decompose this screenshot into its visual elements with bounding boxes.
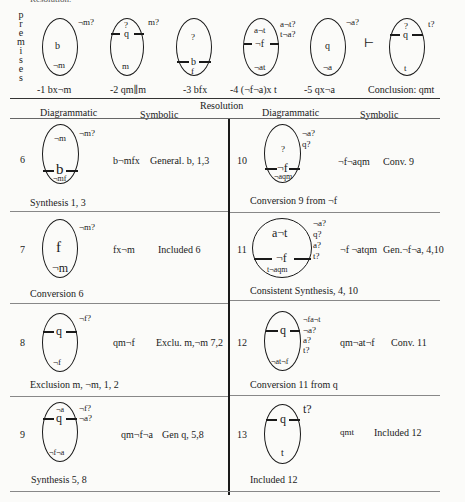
- outside-label: ¬a?: [79, 413, 92, 423]
- inside-label: ¬aqm: [274, 172, 292, 181]
- rule-justification: Gen.¬f¬a, 4,10: [383, 244, 444, 255]
- diagram-caption: Conversion 9 from ¬f: [250, 195, 337, 206]
- rule-justification: Gen q, 5,8: [162, 429, 204, 440]
- outside-label: ¬m?: [79, 128, 95, 138]
- inside-label: q: [124, 28, 129, 39]
- diagram-caption: Synthesis 1, 3: [30, 197, 86, 208]
- inside-label: f: [191, 66, 194, 76]
- step-number: 8: [20, 337, 25, 348]
- premises-divider: [10, 98, 440, 99]
- outside-label: t?: [303, 345, 310, 355]
- entails-icon: ⊢: [364, 37, 374, 49]
- outside-label: a¬t?: [280, 19, 296, 29]
- premise-caption: -2 qm∥m: [110, 84, 146, 95]
- diagram-caption: Included 12: [250, 474, 298, 485]
- inside-label: q: [280, 413, 286, 425]
- inside-label: ¬f¬a: [49, 448, 64, 457]
- inside-label: q: [280, 324, 286, 336]
- inside-label: m: [122, 61, 129, 71]
- rule-justification: Exclu. m,¬m 7,2: [156, 337, 223, 348]
- column-header: Diagrammatic: [262, 107, 319, 118]
- diagram-caption: Synthesis 5, 8: [31, 474, 87, 485]
- premise-caption: -4 (¬f¬a)x t: [230, 84, 277, 95]
- step-number: 10: [237, 155, 247, 166]
- symbolic-formula: ¬f¬aqm: [338, 156, 370, 167]
- conclusion-caption: Conclusion: qmt: [368, 84, 434, 95]
- inside-label: ¬f: [276, 252, 287, 264]
- symbolic-formula: qm¬f: [113, 337, 135, 348]
- step-number: 6: [20, 154, 25, 165]
- inside-label: f: [56, 240, 61, 255]
- diagram-caption: Conversion 6: [30, 288, 84, 299]
- outside-label: ¬f?: [79, 313, 91, 323]
- outside-label: ¬a?: [346, 17, 359, 27]
- symbolic-formula: qm¬f¬a: [121, 429, 153, 440]
- outside-label: ¬a?: [302, 128, 315, 138]
- cut-header-text: Resolution.: [30, 0, 71, 4]
- premise-caption: -5 qx¬a: [304, 84, 335, 95]
- step-number: 12: [237, 337, 247, 348]
- inside-label: t: [404, 63, 407, 73]
- symbolic-formula: b¬mfx: [113, 155, 140, 166]
- outside-label: ¬a?: [313, 218, 326, 228]
- symbolic-formula: ¬f ¬atqm: [340, 244, 377, 255]
- column-divider: [228, 119, 230, 495]
- step-number: 11: [237, 244, 247, 255]
- premises-letter: s: [16, 73, 26, 82]
- outside-label: q?: [313, 229, 322, 239]
- inside-label: ¬at¬f: [271, 357, 288, 366]
- inside-label: t: [281, 447, 284, 458]
- inside-label: a¬t: [254, 25, 266, 35]
- diagram-caption: Conversion 11 from q: [250, 379, 338, 390]
- inside-label: ¬m: [53, 60, 65, 70]
- inside-label: t¬aqm: [267, 265, 288, 274]
- outside-label: ¬a?: [303, 325, 316, 335]
- step-number: 9: [20, 429, 25, 440]
- inside-label: ¬m: [54, 133, 66, 143]
- outside-label: q?: [302, 139, 311, 149]
- outside-label: t?: [303, 403, 312, 415]
- rule-justification: Included 6: [158, 244, 201, 255]
- inside-label: q: [325, 40, 330, 51]
- premise-caption: -3 bfx: [183, 84, 207, 95]
- outside-label: ¬m?: [79, 222, 95, 232]
- step-number: 7: [20, 244, 25, 255]
- inside-label: q: [403, 29, 408, 40]
- outside-label: t?: [428, 19, 435, 29]
- inside-label: ¬mf: [53, 174, 66, 183]
- symbolic-formula: fx¬m: [113, 244, 135, 255]
- step-number: 13: [237, 429, 247, 440]
- premises-vertical-label: p r e m i s e s: [16, 10, 26, 82]
- inside-label: ¬f: [255, 38, 264, 49]
- inside-label: ¬at: [254, 62, 266, 72]
- outside-label: ¬f?: [79, 403, 91, 413]
- symbolic-formula: qm¬at¬f: [340, 337, 375, 348]
- inside-label: ¬f: [53, 357, 61, 367]
- outside-label: a?: [313, 240, 321, 250]
- outside-label: ¬m?: [78, 17, 94, 27]
- outside-label: t?: [313, 251, 320, 261]
- rule-justification: Conv. 11: [391, 337, 427, 348]
- inside-label: ?: [191, 32, 195, 42]
- ellipse: [176, 18, 212, 76]
- symbolic-formula: qmt: [340, 427, 354, 437]
- resolution-title: Resolution: [200, 100, 243, 111]
- inside-label: ?: [281, 144, 285, 154]
- outside-label: ¬fa¬t: [303, 315, 320, 324]
- inside-label: q: [56, 325, 62, 337]
- inside-label: a¬t: [272, 227, 287, 239]
- inside-label: ¬a: [323, 62, 332, 72]
- diagram-caption: Consistent Synthesis, 4, 10: [250, 285, 358, 296]
- rule-justification: General. b, 1,3: [150, 155, 209, 166]
- premise-caption: -1 bx¬m: [37, 84, 71, 95]
- column-header: Diagrammatic: [40, 107, 97, 118]
- outside-label: m?: [148, 17, 159, 27]
- rule-justification: Conv. 9: [383, 156, 414, 167]
- inside-label: q: [56, 412, 62, 424]
- diagram-caption: Exclusion m, ¬m, 1, 2: [30, 379, 119, 390]
- outside-label: t¬a?: [280, 29, 296, 39]
- inside-label: ¬m: [52, 262, 68, 274]
- inside-label: b: [55, 40, 60, 51]
- outside-label: a?: [303, 335, 311, 345]
- rule-justification: Included 12: [374, 427, 422, 438]
